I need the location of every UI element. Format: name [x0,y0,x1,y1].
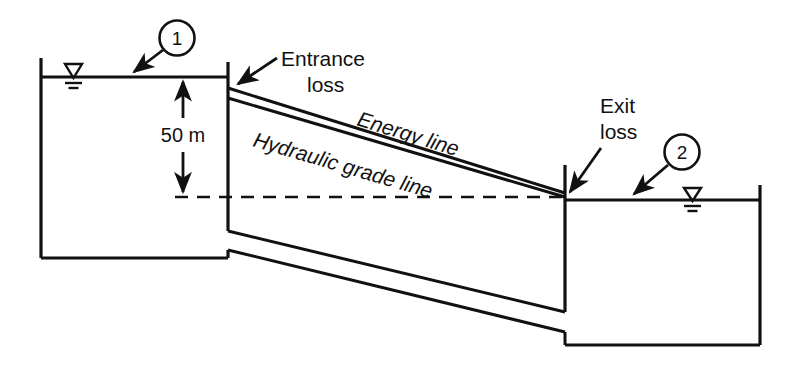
pipe-bottom-edge [228,250,565,332]
station-2-arrow-icon [634,165,668,194]
station-2-label: 2 [677,142,688,163]
exit-loss-callout: Exit loss [570,94,637,192]
right-reservoir [565,165,760,345]
station-1-arrow-icon [134,50,163,72]
station-1-label: 1 [172,28,183,49]
diagram-canvas: 50 m 1 2 Entrance loss Exit loss Energy … [0,0,792,372]
entrance-loss-label-line1: Entrance [281,47,365,70]
station-2-callout: 2 [634,135,700,195]
exit-loss-arrow-icon [570,148,601,192]
entrance-loss-callout: Entrance loss [238,47,365,96]
exit-loss-label-line1: Exit [600,94,635,117]
entrance-loss-arrow-icon [238,58,277,84]
exit-loss-label-line2: loss [600,120,637,143]
pipe-top-edge [228,231,565,312]
station-1-callout: 1 [134,21,195,73]
connecting-pipe [228,231,612,345]
entrance-loss-label-line2: loss [307,73,344,96]
elevation-difference-label: 50 m [161,124,205,146]
elevation-dimension: 50 m [161,82,205,192]
hydraulics-diagram: 50 m 1 2 Entrance loss Exit loss Energy … [0,0,792,372]
